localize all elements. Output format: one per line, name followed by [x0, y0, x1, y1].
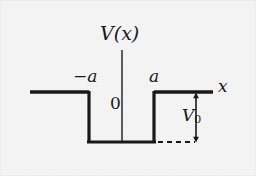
x-axis-label: x: [218, 78, 228, 95]
depth-label: V0: [182, 107, 201, 125]
origin-label: 0: [110, 95, 121, 112]
v-axis-label: V(x): [100, 24, 139, 43]
depth-label-symbol: V: [182, 105, 194, 125]
depth-label-subscript: 0: [194, 113, 201, 126]
tick-label-negative-a: −a: [73, 68, 97, 85]
figure-canvas: V(x) −a a 0 x V0: [0, 0, 256, 176]
tick-label-a: a: [149, 68, 159, 85]
